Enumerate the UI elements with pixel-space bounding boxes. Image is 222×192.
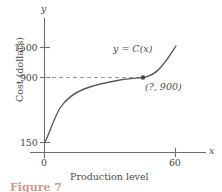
cost-curve bbox=[45, 46, 176, 142]
figure-container: y x 1500 900 150 0 60 y = C(x) (?, 900) … bbox=[0, 0, 222, 192]
y-axis-title: Cost (dollars) bbox=[14, 37, 25, 102]
x-tick-label-0: 0 bbox=[41, 158, 47, 168]
y-axis-title-wrap: Cost (dollars) bbox=[8, 25, 27, 115]
curve-equation-label: y = C(x) bbox=[113, 44, 152, 54]
x-tick-label-60: 60 bbox=[169, 158, 181, 168]
figure-caption: Figure 7 bbox=[10, 181, 62, 192]
y-tick-label-150: 150 bbox=[20, 138, 38, 148]
x-axis-title: Production level bbox=[70, 172, 149, 182]
marked-point-label: (?, 900) bbox=[145, 82, 182, 92]
y-axis-variable-label: y bbox=[41, 4, 46, 14]
cost-function-plot bbox=[0, 0, 222, 192]
marked-point-dot bbox=[141, 75, 146, 80]
x-axis-variable-label: x bbox=[209, 146, 214, 156]
